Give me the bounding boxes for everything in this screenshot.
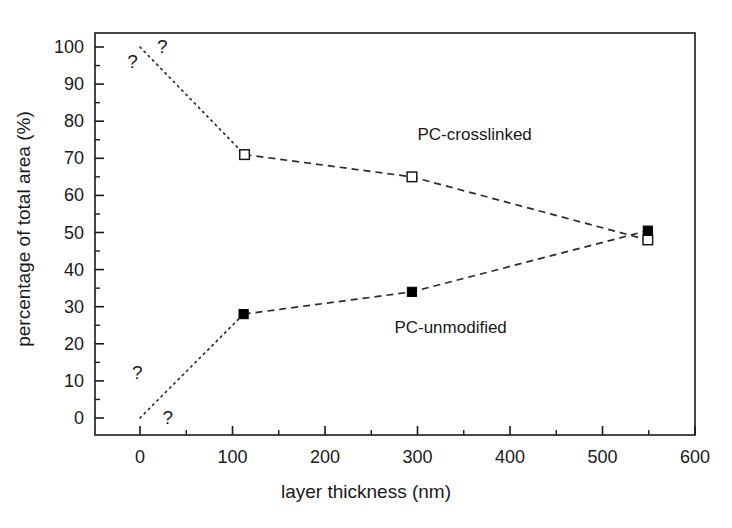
x-axis-tick-label: 200 [310,447,340,468]
y-axis-tick-label: 50 [40,222,84,243]
data-point-filled-square[interactable] [239,310,248,319]
data-point-filled-square[interactable] [407,287,416,296]
x-axis-tick-label: 300 [402,447,432,468]
y-axis-tick-label: 90 [40,74,84,95]
uncertainty-question-mark: ? [162,407,173,429]
x-axis-tick-label: 0 [135,447,145,468]
x-axis-title: layer thickness (nm) [0,481,732,503]
uncertainty-question-mark: ? [127,51,138,73]
uncertainty-question-mark: ? [157,36,168,58]
x-axis-tick-label: 400 [495,447,525,468]
series-label: PC-unmodified [394,318,506,338]
x-axis-tick-label: 500 [587,447,617,468]
series-label: PC-crosslinked [418,125,532,145]
y-axis-title: percentage of total area (%) [13,24,35,434]
y-axis-tick-label: 70 [40,148,84,169]
uncertainty-question-mark: ? [132,362,143,384]
plot-canvas [0,0,732,528]
x-axis-tick-label: 100 [217,447,247,468]
y-axis-tick-label: 100 [40,37,84,58]
x-axis-tick-label: 600 [680,447,710,468]
data-point-filled-square[interactable] [643,226,652,235]
y-axis-tick-label: 80 [40,111,84,132]
y-axis-tick-label: 40 [40,259,84,280]
plot-frame [95,33,695,435]
chart-figure: percentage of total area (%) layer thick… [0,0,732,528]
y-axis-tick-label: 0 [40,408,84,429]
y-axis-tick-label: 30 [40,296,84,317]
y-axis-tick-label: 10 [40,370,84,391]
data-point-open-square[interactable] [407,172,417,182]
data-point-open-square[interactable] [643,235,653,245]
y-axis-tick-label: 20 [40,333,84,354]
y-axis-tick-label: 60 [40,185,84,206]
data-point-open-square[interactable] [240,150,250,160]
